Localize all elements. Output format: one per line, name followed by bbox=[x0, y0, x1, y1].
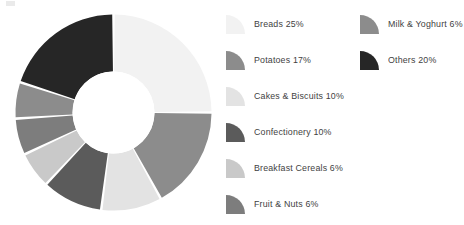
pie-wedge-swatch-icon bbox=[226, 159, 245, 178]
pie-wedge-swatch-icon bbox=[360, 51, 379, 70]
legend-item-label: Breads 25% bbox=[254, 19, 304, 29]
donut-chart-svg bbox=[14, 13, 213, 212]
pie-wedge-swatch-icon bbox=[360, 15, 379, 34]
donut-chart-figure: Breads 25%Potatoes 17%Cakes & Biscuits 1… bbox=[0, 0, 464, 225]
donut-chart bbox=[14, 13, 213, 212]
legend-item-label: Confectionery 10% bbox=[254, 127, 332, 137]
donut-hole bbox=[73, 72, 155, 154]
legend-item[interactable]: Breads 25% bbox=[226, 12, 308, 36]
legend-item[interactable]: Potatoes 17% bbox=[226, 48, 315, 72]
legend-item[interactable]: Others 20% bbox=[360, 48, 440, 72]
legend-item-label: Cakes & Biscuits 10% bbox=[254, 91, 344, 101]
pie-wedge-swatch-icon bbox=[226, 195, 245, 214]
pie-wedge-swatch-icon bbox=[226, 87, 245, 106]
legend-item-label: Milk & Yoghurt 6% bbox=[388, 19, 463, 29]
legend-item[interactable]: Cakes & Biscuits 10% bbox=[226, 84, 351, 108]
legend-item[interactable]: Confectionery 10% bbox=[226, 120, 338, 144]
legend-item-label: Potatoes 17% bbox=[254, 55, 311, 65]
legend-item[interactable]: Milk & Yoghurt 6% bbox=[360, 12, 464, 36]
legend-item-label: Breakfast Cereals 6% bbox=[254, 163, 343, 173]
legend-item-label: Others 20% bbox=[388, 55, 436, 65]
legend-item[interactable]: Breakfast Cereals 6% bbox=[226, 156, 350, 180]
pie-wedge-swatch-icon bbox=[226, 15, 245, 34]
pie-wedge-swatch-icon bbox=[226, 123, 245, 142]
legend-item-label: Fruit & Nuts 6% bbox=[254, 199, 319, 209]
legend-item[interactable]: Fruit & Nuts 6% bbox=[226, 192, 323, 216]
legend: Breads 25%Potatoes 17%Cakes & Biscuits 1… bbox=[226, 0, 464, 225]
image-artifact bbox=[6, 1, 15, 6]
pie-wedge-swatch-icon bbox=[226, 51, 245, 70]
